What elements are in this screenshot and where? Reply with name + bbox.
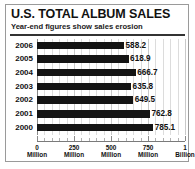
x-tick-minor [141, 138, 142, 141]
x-tick-major [37, 136, 38, 141]
x-tick-minor [178, 138, 179, 141]
x-tick-minor [170, 138, 171, 141]
x-tick-minor [59, 138, 60, 141]
x-tick-label: 1Billion [163, 144, 194, 159]
bar-value-label: 785.1 [153, 122, 175, 133]
category-label: 2001 [15, 108, 33, 119]
bar-row: 2004666.7 [37, 66, 185, 80]
bar-row: 2000785.1 [37, 121, 185, 135]
chart-subtitle: Year-end figures show sales erosion [11, 22, 188, 32]
bar-value-label: 649.5 [133, 94, 155, 105]
bar-value-label: 635.8 [131, 81, 153, 92]
bar-row: 2006588.2 [37, 39, 185, 53]
x-tick-label-unit: Billion [163, 151, 194, 158]
x-tick-minor [96, 138, 97, 141]
x-tick-minor [52, 138, 53, 141]
bar [37, 55, 129, 62]
chart-header: U.S. TOTAL ALBUM SALES Year-end figures … [6, 5, 188, 33]
x-tick-minor [126, 138, 127, 141]
x-tick-major [185, 136, 186, 141]
x-tick-major [148, 136, 149, 141]
x-tick-minor [163, 138, 164, 141]
bar [37, 96, 133, 103]
x-tick-minor [67, 138, 68, 141]
bar [37, 110, 150, 117]
category-label: 2003 [15, 81, 33, 92]
bar [37, 42, 124, 49]
bar-value-label: 762.8 [150, 108, 172, 119]
x-tick-minor [104, 138, 105, 141]
bar-value-label: 588.2 [124, 40, 146, 51]
x-tick-minor [155, 138, 156, 141]
category-label: 2005 [15, 53, 33, 64]
bar-value-label: 618.9 [129, 53, 151, 64]
x-tick-minor [44, 138, 45, 141]
bar-row: 2002649.5 [37, 94, 185, 108]
x-tick-major [74, 136, 75, 141]
plot-area: 2006588.22005618.92004666.72003635.82002… [37, 39, 185, 135]
bar [37, 83, 131, 90]
chart-frame: U.S. TOTAL ALBUM SALES Year-end figures … [5, 4, 189, 162]
chart-title: U.S. TOTAL ALBUM SALES [11, 7, 188, 21]
x-tick-minor [118, 138, 119, 141]
gridline [185, 39, 186, 135]
x-tick-major [111, 136, 112, 141]
category-label: 2002 [15, 94, 33, 105]
header-divider [10, 34, 185, 36]
x-axis-line [37, 141, 185, 142]
x-tick-minor [133, 138, 134, 141]
bar [37, 124, 153, 131]
chart-figure: U.S. TOTAL ALBUM SALES Year-end figures … [0, 0, 194, 169]
bar [37, 69, 136, 76]
bar-row: 2001762.8 [37, 108, 185, 122]
bar-value-label: 666.7 [136, 67, 158, 78]
category-label: 2006 [15, 40, 33, 51]
category-label: 2004 [15, 67, 33, 78]
x-tick-minor [89, 138, 90, 141]
bar-row: 2003635.8 [37, 80, 185, 94]
bar-row: 2005618.9 [37, 53, 185, 67]
x-tick-label-value: 1 [163, 144, 194, 151]
x-tick-minor [81, 138, 82, 141]
category-label: 2000 [15, 122, 33, 133]
